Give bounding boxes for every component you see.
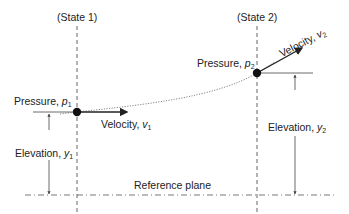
reference-plane-label: Reference plane <box>134 180 211 191</box>
pressure-2-label: Pressure, p2 <box>197 58 255 70</box>
elevation-2-label: Elevation, y2 <box>268 122 326 134</box>
state-2-label: (State 2) <box>237 12 277 23</box>
elevation-1-label: Elevation, y1 <box>15 148 73 160</box>
velocity-1-label: Velocity, v1 <box>101 119 151 131</box>
point-1-dot <box>73 108 81 116</box>
state-1-label: (State 1) <box>57 12 97 23</box>
point-2-dot <box>253 69 261 77</box>
pressure-1-label: Pressure, p1 <box>14 96 72 108</box>
